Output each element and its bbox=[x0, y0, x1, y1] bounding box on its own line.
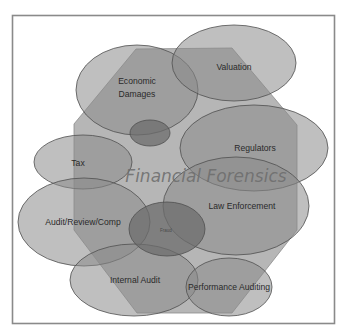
center-title: Financial Forensics bbox=[125, 166, 286, 186]
label-audit-review-comp: Audit/Review/Comp bbox=[45, 217, 121, 227]
label-economic-damages-line1: Economic bbox=[118, 76, 156, 86]
bubble-unlabeled-small bbox=[130, 120, 170, 146]
label-tax: Tax bbox=[71, 158, 85, 168]
label-internal-audit: Internal Audit bbox=[110, 275, 161, 285]
label-valuation: Valuation bbox=[216, 62, 251, 72]
label-regulators: Regulators bbox=[234, 143, 276, 153]
financial-forensics-diagram: Financial Forensics Economic Damages Val… bbox=[0, 0, 348, 335]
label-performance-auditing: Performance Auditing bbox=[188, 282, 270, 292]
label-fraud: Fraud bbox=[160, 228, 172, 233]
label-economic-damages-line2: Damages bbox=[119, 89, 156, 99]
label-law-enforcement: Law Enforcement bbox=[209, 201, 276, 211]
